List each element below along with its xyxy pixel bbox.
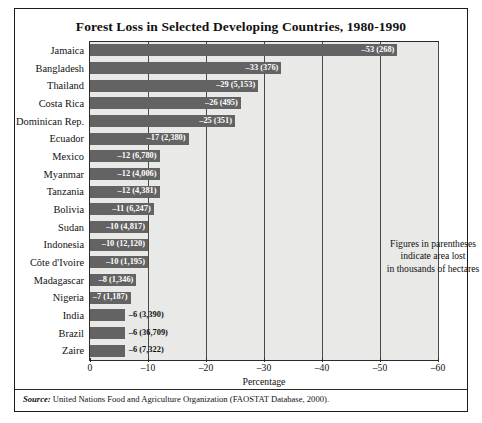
y-axis-tick-label: Sudan [16, 219, 84, 237]
y-axis-labels: JamaicaBangladeshThailandCosta RicaDomin… [16, 42, 84, 362]
bar-value-label: –10 (12,120) [90, 238, 145, 250]
y-axis-tick-label: Brazil [16, 325, 84, 343]
bar-row: –11 (6,247) [90, 201, 438, 219]
y-axis-tick-label: Madagascar [16, 272, 84, 290]
x-axis-tick-label: –60 [418, 362, 458, 373]
y-axis-tick-label: Bolivia [16, 201, 84, 219]
source-label: Source: [23, 394, 51, 404]
bar-value-label: –17 (2,380) [90, 132, 186, 144]
source-note: Source: United Nations Food and Agricult… [23, 394, 329, 404]
bar-value-label: –53 (268) [90, 44, 394, 56]
x-axis-tick-label: –20 [186, 362, 226, 373]
y-axis-tick-label: India [16, 307, 84, 325]
source-divider [15, 389, 467, 390]
bar [90, 309, 125, 321]
x-axis-tick-label: –50 [360, 362, 400, 373]
annotation-line-2: indicate area lost [358, 250, 482, 262]
bar-row: –29 (5,153) [90, 77, 438, 95]
bar-value-label: –12 (6,780) [90, 150, 157, 162]
bar-value-label: –10 (4,817) [90, 221, 145, 233]
bar-row: –12 (6,780) [90, 148, 438, 166]
bar [90, 327, 125, 339]
bar-value-label: –6 (7,322) [129, 344, 164, 356]
y-axis-tick-label: Jamaica [16, 42, 84, 60]
bar-row: –53 (268) [90, 42, 438, 60]
bar-row: –7 (1,187) [90, 289, 438, 307]
bar-value-label: –12 (4,006) [90, 168, 157, 180]
bar-row: –12 (4,381) [90, 183, 438, 201]
y-axis-tick-label: Nigeria [16, 289, 84, 307]
page-title: Forest Loss in Selected Developing Count… [15, 19, 467, 35]
y-axis-tick-label: Côte d'Ivoire [16, 254, 84, 272]
y-axis-tick-label: Dominican Rep. [16, 113, 84, 131]
chart-plot-area: –53 (268)–33 (376)–29 (5,153)–26 (495)–2… [89, 41, 439, 361]
bar-value-label: –12 (4,381) [90, 185, 157, 197]
bar-value-label: –33 (376) [90, 62, 278, 74]
bar-value-label: –8 (1,346) [90, 274, 133, 286]
figure-frame: Forest Loss in Selected Developing Count… [14, 8, 468, 412]
bar-value-label: –6 (3,390) [129, 309, 164, 321]
y-axis-tick-label: Thailand [16, 77, 84, 95]
annotation-line-3: in thousands of hectares [358, 263, 482, 275]
bar-row: –33 (376) [90, 60, 438, 78]
x-axis-tick-label: 0 [70, 362, 110, 373]
x-axis-label: Percentage [89, 376, 439, 387]
bar [90, 345, 125, 357]
bar-row: –12 (4,006) [90, 166, 438, 184]
bar-value-label: –29 (5,153) [90, 79, 255, 91]
gridline [438, 42, 439, 360]
bar-value-label: –25 (351) [90, 115, 232, 127]
bar-row: –10 (4,817) [90, 219, 438, 237]
bar-row: –25 (351) [90, 113, 438, 131]
bar-row: –6 (3,390) [90, 307, 438, 325]
bar-row: –17 (2,380) [90, 130, 438, 148]
bar-value-label: –6 (36,709) [129, 327, 168, 339]
y-axis-tick-label: Ecuador [16, 130, 84, 148]
bar-value-label: –7 (1,187) [90, 291, 128, 303]
bar-row: –6 (36,709) [90, 325, 438, 343]
y-axis-tick-label: Tanzania [16, 183, 84, 201]
y-axis-tick-label: Myanmar [16, 166, 84, 184]
y-axis-tick-label: Indonesia [16, 236, 84, 254]
y-axis-tick-label: Mexico [16, 148, 84, 166]
annotation-line-1: Figures in parentheses [358, 238, 482, 250]
source-text: United Nations Food and Agriculture Orga… [51, 394, 329, 404]
x-axis-tick-label: –10 [128, 362, 168, 373]
bar-value-label: –11 (6,247) [90, 203, 151, 215]
x-axis-tick-label: –40 [302, 362, 342, 373]
y-axis-tick-label: Costa Rica [16, 95, 84, 113]
bar-value-label: –26 (495) [90, 97, 238, 109]
y-axis-tick-label: Bangladesh [16, 60, 84, 78]
x-axis-tick-label: –30 [244, 362, 284, 373]
chart-annotation: Figures in parentheses indicate area los… [358, 238, 482, 275]
bar-row: –26 (495) [90, 95, 438, 113]
y-axis-tick-label: Zaire [16, 342, 84, 360]
bar-value-label: –10 (1,195) [90, 256, 145, 268]
